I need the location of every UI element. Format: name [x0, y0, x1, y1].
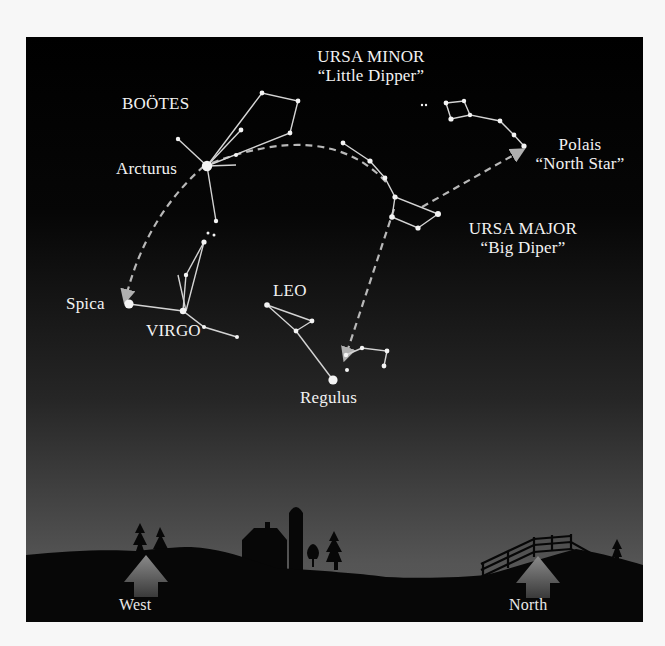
label-spica: Spica: [66, 294, 105, 313]
label-polaris: Polais “North Star”: [536, 135, 625, 173]
star-arcturus: [202, 161, 212, 171]
label-north: North: [509, 595, 547, 614]
label-ursa-minor: URSA MINOR “Little Dipper”: [317, 47, 424, 85]
silo-icon: [289, 507, 303, 572]
label-virgo: VIRGO: [146, 321, 201, 340]
label-west: West: [119, 595, 151, 614]
star-chart-svg: [26, 37, 643, 622]
label-ursa-major: URSA MAJOR “Big Diper”: [469, 219, 577, 257]
label-arcturus: Arcturus: [116, 159, 177, 178]
star-regulus: [328, 375, 337, 384]
label-regulus: Regulus: [300, 388, 357, 407]
label-leo: LEO: [273, 281, 307, 300]
star-polaris: [521, 143, 526, 148]
star-chart-panel: BOÖTES Arcturus URSA MINOR “Little Dippe…: [26, 37, 643, 622]
star-spica: [124, 299, 133, 308]
label-bootes: BOÖTES: [122, 94, 189, 113]
